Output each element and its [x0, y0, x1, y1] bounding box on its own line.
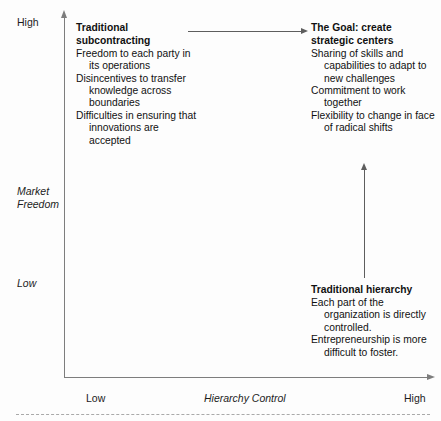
y-axis-arrowhead-icon: [61, 10, 67, 18]
block-item: Entrepreneurship is more difficult to fo…: [311, 334, 439, 359]
block-the-goal-strategic-centers: The Goal: create strategic centers Shari…: [311, 22, 439, 135]
block-traditional-hierarchy: Traditional hierarchy Each part of the o…: [311, 284, 439, 359]
x-axis-arrowhead-icon: [427, 374, 435, 380]
horizontal-connector-line: [188, 31, 303, 32]
x-axis-high-label: High: [404, 392, 426, 405]
block-item: Disincentives to transfer knowledge acro…: [76, 73, 198, 110]
block-item: Sharing of skills and capabilities to ad…: [311, 48, 439, 85]
block-heading-line1: Traditional hierarchy: [311, 284, 439, 296]
block-item: Difficulties in ensuring that innovation…: [76, 110, 198, 147]
y-axis-low-label: Low: [17, 277, 36, 290]
block-item: Commitment to work together: [311, 85, 439, 110]
vertical-connector-line: [364, 170, 365, 278]
y-axis-line: [64, 16, 65, 378]
y-axis-high-label: High: [17, 16, 39, 29]
vertical-connector-arrowhead-icon: [361, 163, 367, 170]
block-heading-line2: strategic centers: [311, 35, 439, 47]
diagram-canvas: High Market Freedom Low Low Hierarchy Co…: [0, 0, 441, 421]
x-axis-line: [64, 377, 432, 378]
block-heading-line1: The Goal: create: [311, 22, 439, 34]
x-axis-low-label: Low: [86, 392, 105, 405]
y-axis-title: Market Freedom: [17, 185, 59, 211]
block-item: Freedom to each party in its operations: [76, 48, 198, 73]
block-traditional-subcontracting: Traditional subcontracting Freedom to ea…: [76, 22, 198, 147]
bottom-divider: [16, 414, 430, 415]
clipped-header-text: [17, 0, 247, 2]
horizontal-connector-arrowhead-icon: [301, 28, 308, 34]
block-item: Flexibility to change in face of radical…: [311, 110, 439, 135]
block-heading-line1: Traditional: [76, 22, 198, 34]
block-heading-line2: subcontracting: [76, 35, 198, 47]
x-axis-title: Hierarchy Control: [204, 392, 286, 405]
block-item: Each part of the organization is directl…: [311, 297, 439, 334]
